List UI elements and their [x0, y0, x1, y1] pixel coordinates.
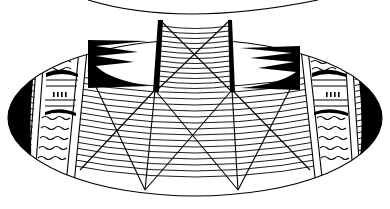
right-end-cap [352, 40, 390, 205]
neck [153, 20, 235, 92]
right-flame-motif [240, 46, 300, 90]
pottery-drawing [0, 0, 390, 209]
rim-arc [88, 0, 318, 14]
